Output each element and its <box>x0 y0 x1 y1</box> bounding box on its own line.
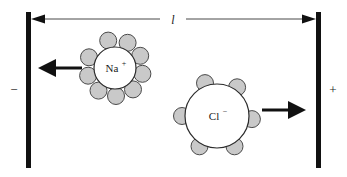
right-electrode-anode <box>316 12 321 168</box>
water-molecule <box>108 88 125 105</box>
electrochemical-cell-diagram: − + l Na + <box>0 0 347 177</box>
sodium-charge-label: + <box>122 59 127 68</box>
cathode-sign-label: − <box>10 82 17 97</box>
sodium-ion-label: Na <box>106 62 119 74</box>
chloride-ion-label: Cl <box>209 110 219 122</box>
left-electrode-cathode <box>26 12 31 168</box>
anode-sign-label: + <box>329 82 336 97</box>
chloride-charge-label: − <box>223 107 228 116</box>
